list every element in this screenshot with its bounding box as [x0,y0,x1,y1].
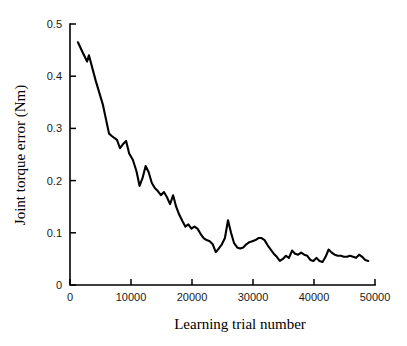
x-tick-label-30000: 30000 [238,291,269,303]
line-chart: 01000020000300004000050000 00.10.20.30.4… [0,0,407,346]
y-axis-title: Joint torque error (Nm) [12,85,29,225]
data-series-line [78,42,368,262]
x-axis-ticks [70,279,375,285]
y-tick-label-0.4: 0.4 [47,70,62,82]
y-axis-ticks [70,24,76,285]
x-tick-labels: 01000020000300004000050000 [67,291,390,303]
y-tick-labels: 00.10.20.30.40.5 [47,18,62,291]
x-tick-label-20000: 20000 [177,291,208,303]
x-axis-title: Learning trial number [174,316,306,332]
x-tick-label-50000: 50000 [360,291,391,303]
y-tick-label-0.2: 0.2 [47,175,62,187]
x-tick-label-10000: 10000 [116,291,147,303]
x-tick-label-0: 0 [67,291,73,303]
tick-labels-group: 01000020000300004000050000 00.10.20.30.4… [47,18,391,303]
plot-axes [70,24,375,285]
y-tick-label-0.5: 0.5 [47,18,62,30]
x-tick-label-40000: 40000 [299,291,330,303]
axis-lines [70,24,375,285]
y-tick-label-0.1: 0.1 [47,227,62,239]
y-tick-label-0: 0 [56,279,62,291]
y-tick-label-0.3: 0.3 [47,122,62,134]
chart-figure: 01000020000300004000050000 00.10.20.30.4… [0,0,407,346]
